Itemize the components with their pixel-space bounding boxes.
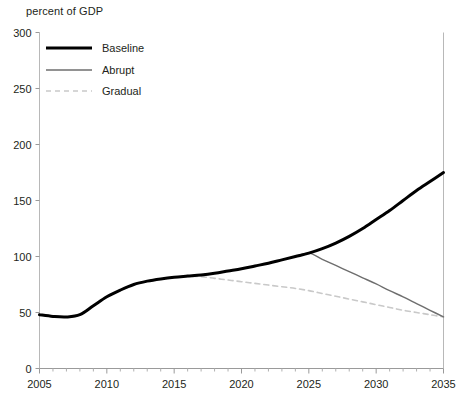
series-line-baseline bbox=[40, 173, 444, 318]
y-axis-tick-label: 0 bbox=[25, 363, 31, 375]
x-axis-tick-label: 2020 bbox=[229, 378, 253, 390]
x-axis-tick-label: 2025 bbox=[297, 378, 321, 390]
series-line-gradual bbox=[40, 277, 444, 318]
legend-label-gradual: Gradual bbox=[102, 85, 141, 97]
y-axis-tick-label: 250 bbox=[13, 83, 31, 95]
legend-label-baseline: Baseline bbox=[102, 42, 144, 54]
x-axis-tick-label: 2030 bbox=[364, 378, 388, 390]
x-axis-tick-label: 2005 bbox=[27, 378, 51, 390]
x-axis-tick-label: 2010 bbox=[95, 378, 119, 390]
chart-plot-area: 0501001502002503002005201020152020202520… bbox=[0, 0, 467, 406]
y-axis-tick-label: 150 bbox=[13, 195, 31, 207]
y-axis-tick-label: 300 bbox=[13, 27, 31, 39]
series-line-abrupt bbox=[40, 253, 444, 317]
y-axis-tick-label: 100 bbox=[13, 251, 31, 263]
y-axis-tick-label: 200 bbox=[13, 139, 31, 151]
y-axis-tick-label: 50 bbox=[19, 307, 31, 319]
chart-container: percent of GDP 0501001502002503002005201… bbox=[0, 0, 467, 406]
x-axis-tick-label: 2035 bbox=[431, 378, 455, 390]
x-axis-tick-label: 2015 bbox=[162, 378, 186, 390]
legend-label-abrupt: Abrupt bbox=[102, 64, 134, 76]
